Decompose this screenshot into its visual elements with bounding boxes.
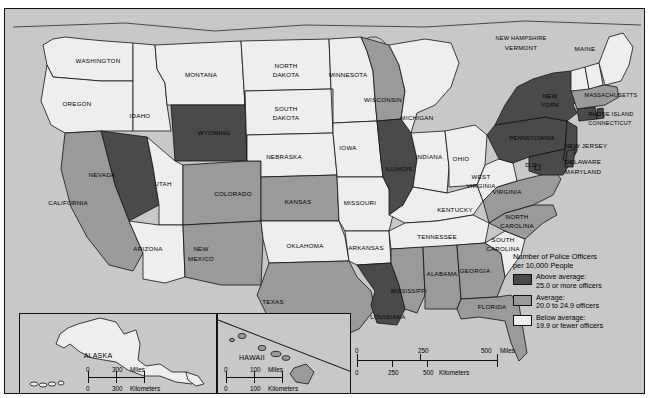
state-label: NORTH [274, 62, 297, 69]
state-newyork[interactable] [495, 71, 583, 125]
canada-border-line [13, 21, 641, 31]
state-label: NEW JERSEY [565, 142, 608, 149]
state-label: CAROLINA [486, 245, 520, 252]
state-indiana[interactable] [411, 131, 449, 193]
hi-scale-tick [254, 377, 255, 383]
state-label: WEST [472, 173, 491, 180]
state-label: VERMONT [505, 44, 538, 51]
legend-title-line1: Number of Police Officers [513, 252, 645, 261]
state-label: ARKANSAS [348, 244, 384, 251]
legend-item-average[interactable]: Average: 20.0 to 24.9 officers [513, 294, 645, 311]
state-label: SOUTH [492, 236, 515, 243]
scale-mi-500: 500 [481, 347, 492, 354]
state-maine[interactable] [599, 33, 633, 85]
alaska-label: ALASKA [84, 352, 113, 359]
alaska-inset[interactable]: ALASKA 0 300 Miles 0 300 Kilometers [19, 313, 217, 394]
hi-scale-km-100: 100 [250, 385, 261, 392]
state-label: ARIZONA [133, 245, 163, 252]
state-label: ALABAMA [427, 270, 459, 277]
legend-item-above-average[interactable]: Above average: 25.0 or more officers [513, 273, 645, 290]
scale-tick [392, 360, 393, 367]
legend-value-below-average: 19.9 or fewer officers [536, 322, 603, 331]
state-label: MISSOURI [344, 199, 377, 206]
scale-mi-0: 0 [355, 347, 359, 354]
state-label: MARYLAND [565, 168, 602, 175]
state-label: MINNESOTA [329, 71, 368, 78]
state-label: OREGON [62, 100, 91, 107]
state-label: COLORADO [214, 190, 251, 197]
hi-scale-km-unit: Kilometers [268, 385, 298, 392]
state-label: FLORIDA [478, 303, 507, 310]
hawaii-inset[interactable]: HAWAII 0 100 Miles 0 100 Kilometers [217, 313, 351, 394]
state-label: WASHINGTON [76, 57, 121, 64]
hi-scale-mi-100: 100 [250, 366, 261, 373]
hawaii-label: HAWAII [239, 354, 265, 361]
ak-scale-km-300: 300 [112, 385, 123, 392]
state-label: NEW [193, 245, 208, 252]
state-label: MAINE [575, 45, 596, 52]
state-label: KANSAS [285, 198, 312, 205]
state-label: TENNESSEE [417, 233, 457, 240]
state-label: MASSACHUSETTS [585, 92, 638, 98]
hawaii-divider-line [218, 320, 351, 372]
state-label: NORTH [505, 213, 528, 220]
state-label: D.C. [525, 161, 538, 168]
legend-swatch-average [513, 295, 532, 306]
alaska-scale-bar: 0 300 Miles 0 300 Kilometers [86, 366, 204, 394]
hi-scale-tick [282, 371, 283, 383]
legend-item-below-average[interactable]: Below average: 19.9 or fewer officers [513, 314, 645, 331]
legend-value-above-average: 25.0 or more officers [536, 282, 602, 291]
state-label: IDAHO [130, 112, 151, 119]
state-label: SOUTH [275, 105, 298, 112]
state-label: WISCONSIN [364, 96, 402, 103]
state-label: GEORGIA [460, 267, 491, 274]
scale-mi-unit: Miles [500, 347, 515, 354]
state-label: CALIFORNIA [48, 199, 88, 206]
state-label: DAKOTA [273, 71, 300, 78]
main-scale-bar: 0 250 500 Miles 0 250 500 Kilometers [355, 347, 530, 385]
state-label: IOWA [339, 144, 357, 151]
scale-km-unit: Kilometers [439, 369, 469, 376]
ak-scale-km-unit: Kilometers [130, 385, 160, 392]
hawaii-scale-bar: 0 100 Miles 0 100 Kilometers [224, 366, 342, 394]
state-label: VIRGINIA [466, 182, 496, 189]
state-label: DAKOTA [273, 114, 300, 121]
state-label: VIRGINIA [492, 188, 522, 195]
state-label: UTAH [154, 180, 171, 187]
scale-tick [427, 360, 428, 367]
state-newmexico[interactable] [183, 221, 263, 285]
legend-swatch-above-average [513, 274, 532, 285]
map-legend: Number of Police Officers per 10,000 Peo… [513, 252, 645, 334]
state-label: MONTANA [185, 71, 218, 78]
legend-swatch-below-average [513, 315, 532, 326]
state-label: NEW [542, 92, 557, 99]
state-label: YORK [541, 101, 560, 108]
state-label: TEXAS [262, 298, 284, 305]
state-label: INDIANA [416, 153, 443, 160]
state-label: MEXICO [188, 255, 214, 262]
state-label: KENTUCKY [437, 206, 473, 213]
hi-scale-km-0: 0 [224, 385, 228, 392]
map-frame: .above{fill:#4a4a4a;stroke:#111;stroke-w… [4, 8, 645, 394]
state-label: OKLAHOMA [286, 242, 324, 249]
ak-scale-tick [116, 377, 117, 383]
hi-scale-mi-unit: Miles [268, 366, 283, 373]
scale-tick [357, 354, 358, 367]
ak-scale-mi-300: 300 [112, 366, 123, 373]
scale-km-0: 0 [355, 369, 359, 376]
state-label: LOUISIANA [370, 313, 406, 320]
scale-km-250: 250 [388, 369, 399, 376]
state-label: ILLINOIS [385, 165, 412, 172]
legend-value-average: 20.0 to 24.9 officers [536, 302, 599, 311]
state-label: DELAWARE [565, 158, 601, 165]
state-label: NEVADA [89, 171, 116, 178]
scale-tick [497, 354, 498, 367]
state-label: RHODE ISLAND [589, 111, 634, 117]
state-label: NEW HAMPSHIRE [495, 35, 546, 41]
state-label: WYOMING [198, 129, 231, 136]
ak-scale-km-0: 0 [86, 385, 90, 392]
ak-scale-mi-unit: Miles [130, 366, 145, 373]
state-alabama[interactable] [423, 245, 461, 309]
ak-scale-tick [144, 371, 145, 383]
hi-scale-tick [226, 371, 227, 383]
